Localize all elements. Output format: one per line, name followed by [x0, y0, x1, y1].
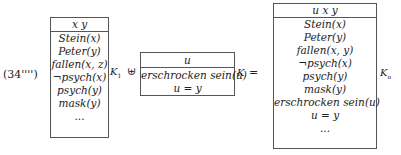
drs-3-condition: Peter(y): [274, 31, 376, 44]
drs-3-condition: u = y: [274, 109, 376, 122]
drs-1-condition: fallen(x, z): [51, 58, 108, 71]
drs-1-condition: ...: [51, 110, 108, 123]
drs-1-condition: Peter(y): [51, 45, 108, 58]
drs-3-condition: psych(y): [274, 70, 376, 83]
drs-3-condition: ¬psych(x): [274, 57, 376, 70]
drs-3-universe: u x y: [274, 4, 376, 18]
drs-box-2: u erschrocken sein(u) u = y: [140, 52, 235, 96]
drs-box-1: x y Stein(x) Peter(y) fallen(x, z) ¬psyc…: [50, 17, 109, 138]
drs-1-context-label: K1: [110, 66, 121, 79]
drs-1-condition: mask(y): [51, 97, 108, 110]
drs-2-universe: u: [141, 53, 234, 68]
drs-box-3: u x y Stein(x) Peter(y) fallen(x, y) ¬ps…: [273, 3, 377, 149]
drs-3-context-label: Ko: [380, 67, 391, 80]
drs-2-condition: erschrocken sein(u): [141, 68, 234, 82]
drs-3-condition: Stein(x): [274, 18, 376, 31]
example-number: (34''''): [3, 68, 38, 81]
drs-3-condition: erschrocken sein(u): [274, 96, 376, 109]
drs-1-condition: Stein(x): [51, 32, 108, 45]
drs-3-condition: fallen(x, y): [274, 44, 376, 57]
merge-operator: ⊎: [127, 65, 136, 78]
drs-3-condition: ...: [274, 122, 376, 135]
drs-2-context-label: K: [237, 67, 244, 78]
drs-2-condition: u = y: [141, 82, 234, 95]
drs-1-condition: psych(y): [51, 84, 108, 97]
drs-1-universe: x y: [51, 18, 108, 32]
equals-sign: =: [249, 66, 258, 79]
drs-3-condition: mask(y): [274, 83, 376, 96]
drs-1-condition: ¬psych(x): [51, 71, 108, 84]
